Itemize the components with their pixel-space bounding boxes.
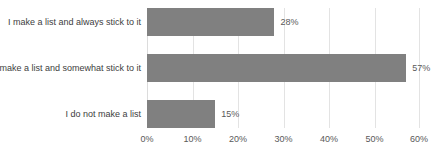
x-tick-label: 40% [320, 134, 338, 144]
bar-value-label: 28% [274, 17, 298, 27]
bar [147, 100, 215, 128]
bar-row: 28% [147, 8, 420, 36]
x-tick-label: 10% [183, 134, 201, 144]
bar [147, 54, 406, 82]
x-tick-label: 50% [365, 134, 383, 144]
x-axis: 0% 10% 20% 30% 40% 50% 60% [147, 128, 420, 150]
bar-series: 28% 57% 15% [147, 8, 420, 128]
bar [147, 8, 274, 36]
bar-row: 57% [147, 54, 420, 82]
category-label: I make a list and somewhat stick to it [0, 54, 141, 82]
category-label: I do not make a list [0, 100, 141, 128]
x-tick-label: 20% [229, 134, 247, 144]
x-tick-label: 30% [274, 134, 292, 144]
bar-row: 15% [147, 100, 420, 128]
bar-value-label: 15% [215, 109, 239, 119]
x-tick-label: 60% [410, 134, 428, 144]
plot-area: 28% 57% 15% [147, 8, 420, 128]
category-label: I make a list and always stick to it [0, 8, 141, 36]
bar-chart: I make a list and always stick to it I m… [0, 0, 442, 161]
bar-value-label: 57% [406, 63, 430, 73]
x-tick-label: 0% [140, 134, 153, 144]
category-axis: I make a list and always stick to it I m… [0, 8, 141, 128]
